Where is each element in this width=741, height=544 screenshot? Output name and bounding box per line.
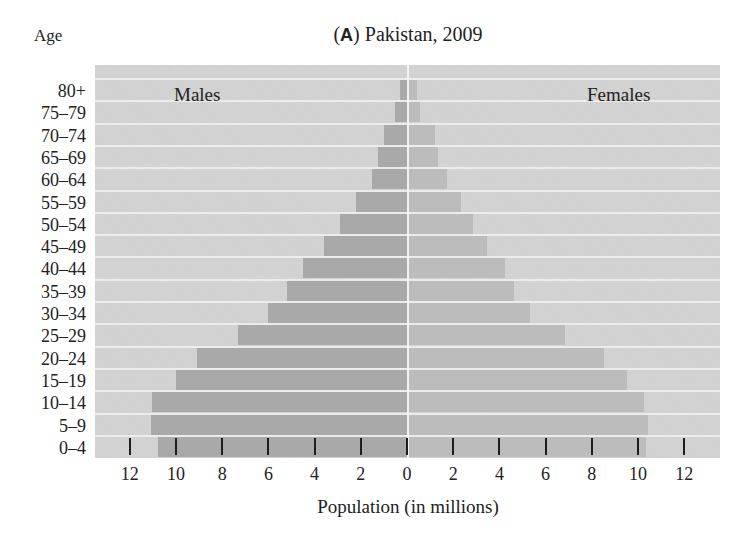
- x-tick-label: 2: [341, 464, 381, 485]
- x-tick: [175, 438, 177, 455]
- age-group-label: 0–4: [59, 438, 86, 458]
- x-tick: [452, 438, 454, 455]
- x-axis-title: Population (in millions): [0, 496, 741, 518]
- x-tick: [360, 438, 362, 455]
- age-group-label: 35–39: [41, 282, 86, 302]
- bar-male-15–19: [176, 370, 407, 390]
- bar-female-5–9: [408, 415, 648, 435]
- legend-females: Females: [587, 84, 650, 106]
- age-group-label: 15–19: [41, 371, 86, 391]
- bar-female-10–14: [408, 392, 644, 412]
- bar-male-20–24: [197, 348, 407, 368]
- age-group-label: 65–69: [41, 148, 86, 168]
- x-tick-label: 8: [202, 464, 242, 485]
- bar-male-75–79: [395, 102, 407, 122]
- bar-female-70–74: [408, 125, 435, 145]
- x-tick: [267, 438, 269, 455]
- bar-male-0–4: [158, 437, 407, 457]
- bar-female-65–69: [408, 147, 438, 167]
- bar-male-65–69: [378, 147, 407, 167]
- age-group-label: 5–9: [59, 416, 86, 436]
- bar-male-50–54: [340, 214, 407, 234]
- bar-female-25–29: [408, 325, 565, 345]
- x-tick: [498, 438, 500, 455]
- age-group-label: 50–54: [41, 215, 86, 235]
- x-tick: [129, 438, 131, 455]
- panel-letter: A: [340, 25, 353, 45]
- bar-female-15–19: [408, 370, 627, 390]
- x-tick-label: 6: [248, 464, 288, 485]
- bar-female-75–79: [408, 102, 420, 122]
- center-axis-line: [407, 65, 409, 458]
- x-tick-label: 4: [479, 464, 519, 485]
- bar-male-25–29: [238, 325, 407, 345]
- bar-female-60–64: [408, 169, 447, 189]
- x-tick: [406, 438, 408, 455]
- bar-female-45–49: [408, 236, 487, 256]
- x-tick: [591, 438, 593, 455]
- bar-male-55–59: [356, 192, 407, 212]
- bar-male-40–44: [303, 258, 407, 278]
- x-tick-label: 2: [433, 464, 473, 485]
- bar-female-50–54: [408, 214, 473, 234]
- x-tick-label: 6: [526, 464, 566, 485]
- bar-male-35–39: [287, 281, 407, 301]
- bar-male-70–74: [384, 125, 407, 145]
- x-tick: [683, 438, 685, 455]
- x-tick-label: 12: [110, 464, 150, 485]
- x-tick-label: 4: [295, 464, 335, 485]
- plot-area: [95, 65, 720, 458]
- bar-male-80+: [400, 80, 407, 100]
- x-tick: [221, 438, 223, 455]
- x-tick-label: 10: [618, 464, 658, 485]
- x-tick-label: 10: [156, 464, 196, 485]
- x-tick-label: 12: [664, 464, 704, 485]
- bar-male-45–49: [324, 236, 407, 256]
- bar-female-55–59: [408, 192, 461, 212]
- x-tick-label: 0: [387, 464, 427, 485]
- x-tick-label: 8: [572, 464, 612, 485]
- age-group-label: 25–29: [41, 326, 86, 346]
- age-group-label: 40–44: [41, 259, 86, 279]
- bar-female-20–24: [408, 348, 604, 368]
- x-tick: [637, 438, 639, 455]
- chart-title: (A) Pakistan, 2009: [0, 23, 741, 46]
- age-group-label: 75–79: [41, 103, 86, 123]
- x-tick: [545, 438, 547, 455]
- title-text: ) Pakistan, 2009: [353, 23, 482, 45]
- age-group-label: 80+: [58, 81, 86, 101]
- age-group-label: 45–49: [41, 237, 86, 257]
- age-group-label: 60–64: [41, 170, 86, 190]
- bar-male-5–9: [151, 415, 407, 435]
- legend-males: Males: [174, 84, 220, 106]
- age-group-label: 55–59: [41, 193, 86, 213]
- age-group-label: 20–24: [41, 349, 86, 369]
- age-group-label: 70–74: [41, 126, 86, 146]
- bar-female-40–44: [408, 258, 505, 278]
- bar-male-30–34: [268, 303, 407, 323]
- bar-female-80+: [408, 80, 417, 100]
- age-group-label: 30–34: [41, 304, 86, 324]
- bar-male-60–64: [372, 169, 407, 189]
- x-tick: [314, 438, 316, 455]
- bar-female-30–34: [408, 303, 530, 323]
- bar-male-10–14: [152, 392, 407, 412]
- bar-female-35–39: [408, 281, 514, 301]
- age-group-label: 10–14: [41, 393, 86, 413]
- bar-female-0–4: [408, 437, 646, 457]
